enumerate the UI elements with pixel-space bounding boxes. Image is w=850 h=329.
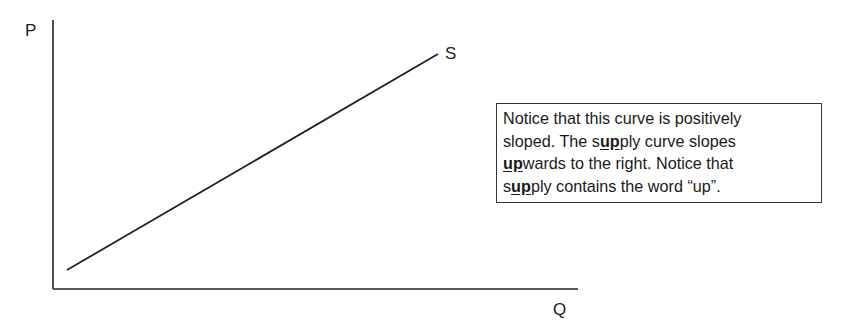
annotation-line: supply contains the word “up”. [503,175,821,198]
annotation-text: sloped. The s [503,132,600,150]
y-axis-label: P [25,22,36,39]
annotation-text: Notice that this curve is positively [503,109,741,127]
emphasis-up: up [600,132,620,150]
annotation-line: upwards to the right. Notice that [503,152,821,175]
emphasis-up: up [511,177,531,195]
annotation-text: s [503,177,511,195]
annotation-line: Notice that this curve is positively [503,107,821,130]
annotation-text: ply contains the word “up”. [531,177,721,195]
emphasis-up: up [503,154,523,172]
annotation-line: sloped. The supply curve slopes [503,130,821,153]
supply-curve-label: S [445,45,456,62]
annotation-text: wards to the right. Notice that [523,154,734,172]
annotation-text: ply curve slopes [620,132,736,150]
supply-curve [67,54,438,270]
annotation-box: Notice that this curve is positivelyslop… [496,103,822,203]
x-axis-label: Q [553,301,566,318]
